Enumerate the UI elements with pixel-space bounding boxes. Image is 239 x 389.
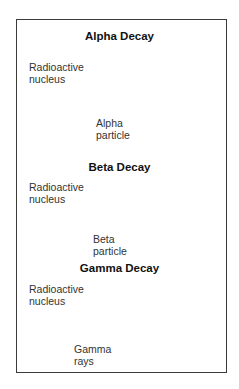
gamma-source-label: Radioactive nucleus — [29, 283, 84, 307]
alpha-particle-label: Alpha particle — [96, 117, 130, 141]
beta-source-label: Radioactive nucleus — [29, 181, 84, 205]
gamma-rays-label: Gamma rays — [74, 343, 111, 367]
beta-decay-title: Beta Decay — [0, 161, 239, 173]
alpha-source-label: Radioactive nucleus — [29, 61, 84, 85]
beta-particle-label: Beta particle — [93, 233, 127, 257]
gamma-decay-title: Gamma Decay — [0, 262, 239, 274]
alpha-decay-title: Alpha Decay — [0, 30, 239, 42]
